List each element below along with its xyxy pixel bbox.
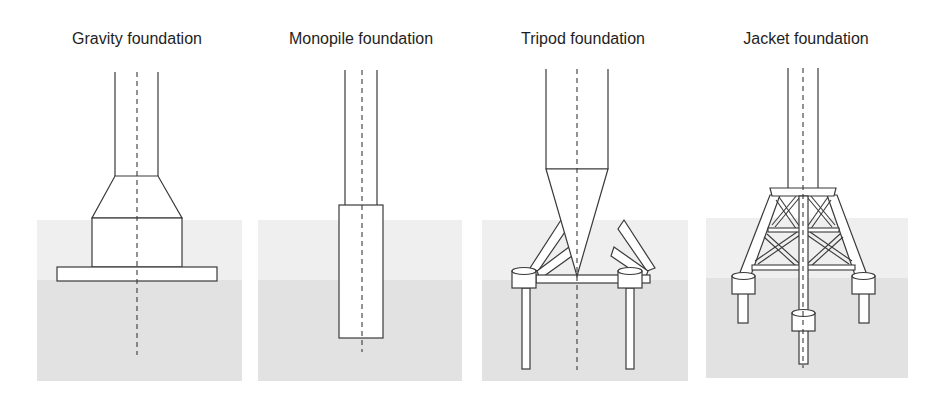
tripod-pile-left — [522, 288, 530, 369]
tripod-pile-right — [626, 288, 634, 369]
jacket-foundation-panel — [706, 68, 908, 378]
jacket-sleeve-right — [852, 273, 875, 295]
foundations-diagram — [0, 0, 936, 394]
jacket-pile-left — [738, 293, 748, 323]
monopile — [339, 205, 383, 338]
tripod-foundation-panel — [482, 69, 688, 381]
monopile-foundation-panel — [258, 70, 462, 381]
tripod-sleeve-left — [512, 268, 536, 289]
seabed-zone — [37, 280, 242, 381]
gravity-foundation-panel — [37, 72, 242, 381]
jacket-pile-right — [859, 293, 869, 323]
jacket-sleeve-left — [732, 273, 755, 295]
seabed-zone — [482, 280, 688, 381]
tripod-sleeve-right — [618, 268, 642, 289]
